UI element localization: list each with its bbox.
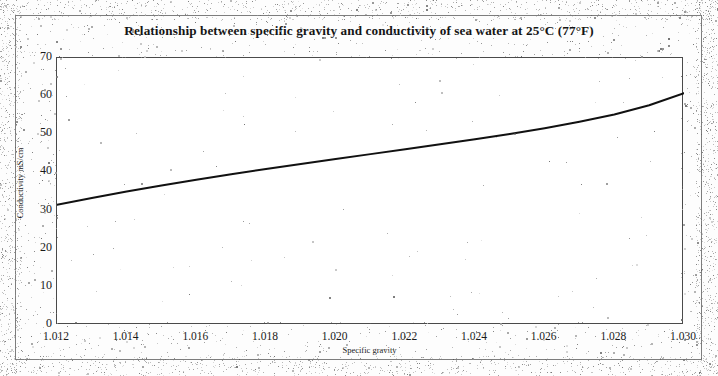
x-tick-label: 1.014 <box>96 330 156 342</box>
chart-title: Relationship between specific gravity an… <box>16 23 702 39</box>
plot-area <box>56 57 683 324</box>
y-tick-label: 10 <box>26 278 52 293</box>
x-tick-label: 1.030 <box>653 330 713 342</box>
x-tick-label: 1.018 <box>235 330 295 342</box>
x-tick-label: 1.020 <box>305 330 365 342</box>
y-tick-label: 40 <box>26 163 52 178</box>
x-tick-label: 1.022 <box>374 330 434 342</box>
y-tick-label: 20 <box>26 240 52 255</box>
x-axis-tick-labels: 1.0121.0141.0161.0181.0201.0221.0241.026… <box>0 330 718 346</box>
x-tick-label: 1.028 <box>583 330 643 342</box>
chart-page: Relationship between specific gravity an… <box>0 0 718 376</box>
x-tick-label: 1.026 <box>514 330 574 342</box>
y-tick-label: 50 <box>26 125 52 140</box>
x-tick-label: 1.024 <box>444 330 504 342</box>
plot-canvas <box>57 58 684 325</box>
conductivity-curve <box>57 93 684 205</box>
x-axis-title: Specific gravity <box>56 345 683 355</box>
y-tick-label: 70 <box>26 49 52 64</box>
y-axis-title: Conductivity mS/cm <box>15 123 25 243</box>
y-tick-label: 30 <box>26 202 52 217</box>
y-tick-label: 60 <box>26 87 52 102</box>
y-tick-label: 0 <box>26 316 52 331</box>
x-tick-label: 1.012 <box>26 330 86 342</box>
x-tick-label: 1.016 <box>165 330 225 342</box>
